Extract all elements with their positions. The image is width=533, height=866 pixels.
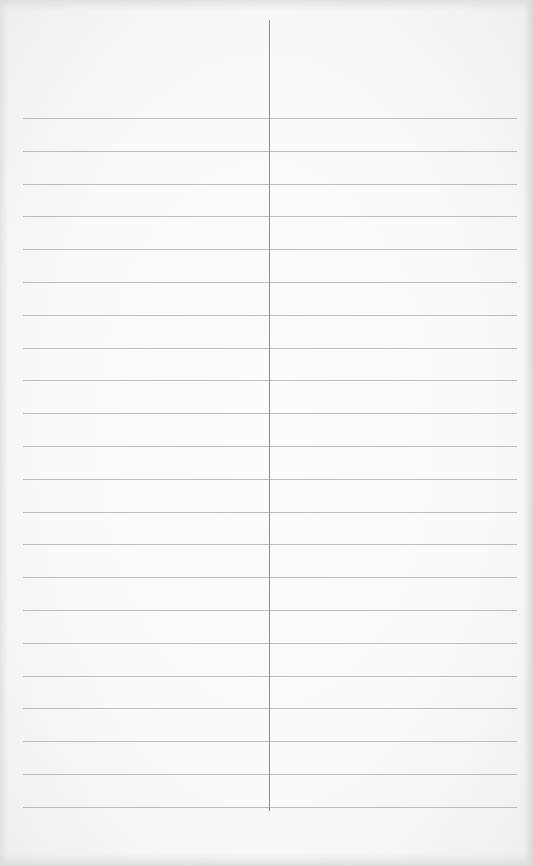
row-cell-left [23, 415, 268, 447]
row-cell-left [23, 317, 268, 349]
row-cell-left [23, 153, 268, 185]
row-cell-left [23, 546, 268, 578]
row-cell-right [271, 251, 517, 283]
row-cell-right [271, 284, 517, 316]
row-cell-right [271, 612, 517, 644]
row-cell-right [271, 382, 517, 414]
row-cell-left [23, 612, 268, 644]
paper-edge-shadow-right [523, 0, 533, 866]
row-cell-left [23, 579, 268, 611]
row-cell-left [23, 218, 268, 250]
row-cell-left [23, 120, 268, 152]
paper-edge-shadow-left [0, 0, 8, 866]
row-cell-left [23, 448, 268, 480]
row-cell-right [271, 317, 517, 349]
row-cell-left [23, 251, 268, 283]
row-cell-left [23, 776, 268, 808]
paper-edge-shadow-bottom [0, 854, 533, 866]
row-cell-right [271, 185, 517, 217]
row-cell-right [271, 153, 517, 185]
row-cell-right [271, 677, 517, 709]
row-cell-right [271, 513, 517, 545]
row-cell-right [271, 120, 517, 152]
row-cell-left [23, 677, 268, 709]
row-cell-right [271, 218, 517, 250]
row-cell-left [23, 710, 268, 742]
paper-edge-shadow-top [0, 0, 533, 10]
row-cell-left [23, 284, 268, 316]
row-cell-left [23, 481, 268, 513]
row-cell-left [23, 382, 268, 414]
row-cell-left [23, 743, 268, 775]
row-cell-right [271, 776, 517, 808]
row-cell-left [23, 349, 268, 381]
row-cell-right [271, 546, 517, 578]
row-cell-right [271, 743, 517, 775]
lined-paper-page [0, 0, 533, 866]
row-cell-right [271, 579, 517, 611]
row-cell-right [271, 645, 517, 677]
row-cell-right [271, 87, 517, 119]
row-cell-right [271, 710, 517, 742]
row-cell-right [271, 481, 517, 513]
row-cell-left [23, 185, 268, 217]
row-cell-right [271, 415, 517, 447]
row-cell-right [271, 349, 517, 381]
row-cell-left [23, 513, 268, 545]
row-cell-left [23, 87, 268, 119]
row-cell-left [23, 645, 268, 677]
row-cell-right [271, 448, 517, 480]
column-divider [269, 20, 270, 811]
